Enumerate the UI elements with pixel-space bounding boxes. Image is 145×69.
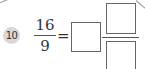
problem-number-badge: 10 [3,27,20,44]
whole-number-answer-box[interactable] [71,22,101,52]
denominator-answer-box[interactable] [106,41,136,69]
numerator-answer-box[interactable] [106,3,136,34]
problem-number: 10 [6,30,18,41]
answer-fraction-bar [102,37,139,38]
decorative-frame-line-left [0,0,11,4]
given-numerator: 16 [34,16,56,34]
given-fraction: 16 9 [34,16,56,55]
decorative-frame-line-right [136,0,145,10]
given-fraction-bar [34,35,56,36]
equals-sign: = [57,27,70,45]
given-denominator: 9 [34,37,56,55]
